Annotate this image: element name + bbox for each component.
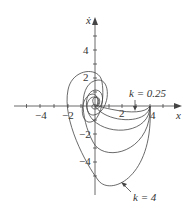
y-axis-arrow-icon bbox=[92, 17, 98, 25]
annotation-k-small: k = 0.25 bbox=[129, 87, 167, 99]
annotation-k-large: k = 4 bbox=[133, 191, 157, 203]
x-tick-label: 4 bbox=[150, 109, 156, 121]
y-tick-label: −4 bbox=[79, 155, 91, 167]
y-tick-label: 2 bbox=[83, 71, 89, 83]
phase-plane-figure: −4 −2 2 4 4 2 −2 −4 x ẋ k = 0.25 k = 4 bbox=[0, 0, 189, 211]
x-tick-label: 2 bbox=[119, 107, 125, 119]
k-small-arrowhead-icon bbox=[133, 106, 137, 111]
phase-plane-chart: −4 −2 2 4 4 2 −2 −4 x ẋ k = 0.25 k = 4 bbox=[0, 0, 189, 211]
x-axis-label: x bbox=[175, 109, 181, 121]
x-tick-label: −4 bbox=[35, 109, 47, 121]
k-large-arrow bbox=[124, 185, 131, 192]
k-large-arrowhead-icon bbox=[121, 182, 127, 187]
y-axis-label: ẋ bbox=[85, 14, 91, 26]
y-tick-label: 4 bbox=[83, 44, 89, 56]
